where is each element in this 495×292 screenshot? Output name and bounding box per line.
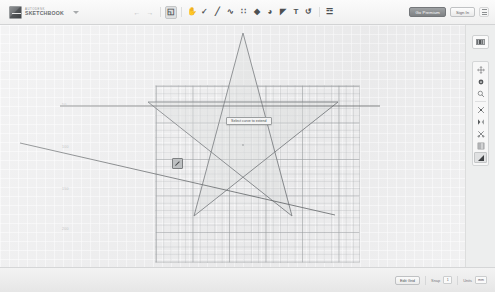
line-tool-button[interactable]: ╱: [212, 6, 224, 19]
ruler-tick-label: 50: [62, 103, 66, 107]
pan-tool-button[interactable]: ✋: [186, 6, 198, 19]
vertical-ruler: 50 100 150 200: [62, 25, 78, 267]
tool-group: ← → ◱ ✋ ✓ ╱ ∿ ∷ ◆: [131, 6, 336, 19]
app-brand[interactable]: AUTODESK SKETCHBOOK: [9, 6, 64, 19]
color-palette-swatch: [476, 39, 485, 45]
canvas-tooltip: Select curve to extend: [226, 117, 272, 125]
ruler-tick-label: 100: [62, 145, 69, 149]
go-premium-button[interactable]: Go Premium: [409, 7, 446, 17]
ruler-tick-label: 150: [62, 187, 69, 191]
curve-tool-icon: ∿: [227, 8, 234, 16]
toolbar-divider: [160, 7, 161, 17]
zoom-tool-button[interactable]: [474, 88, 487, 99]
grid-tool-button[interactable]: ∷: [238, 6, 250, 19]
panel-divider: [475, 101, 486, 102]
grid-tool-icon: ∷: [241, 8, 246, 16]
ruler-tick-label: 200: [62, 227, 69, 231]
redo-button[interactable]: →: [144, 6, 156, 19]
chevron-down-icon[interactable]: [73, 11, 79, 14]
line-tool-icon: ╱: [215, 8, 220, 16]
rotate-view-tool-button[interactable]: [474, 76, 487, 87]
edit-grid-button[interactable]: Edit Grid: [395, 276, 420, 285]
layers-tool-button[interactable]: ☲: [324, 6, 336, 19]
rotate-tool-button[interactable]: ↺: [303, 6, 315, 19]
top-toolbar: AUTODESK SKETCHBOOK ← → ◱ ✋ ✓ ╱ ∿: [0, 0, 495, 25]
extend-tool-button[interactable]: [474, 152, 487, 163]
curve-tool-button[interactable]: ∿: [225, 6, 237, 19]
layers-tool-icon: ☲: [326, 8, 333, 16]
pan-tool-icon: ✋: [187, 8, 197, 16]
status-bar: Edit Grid Snap 1 Units mm: [0, 267, 495, 292]
measure-tool-icon: ✓: [201, 8, 208, 16]
shape-tool-icon: ◆: [254, 8, 260, 16]
pen-tool-icon: [172, 158, 183, 169]
color-palette-button[interactable]: [472, 35, 489, 49]
right-panel: [465, 25, 495, 267]
snap-label: Snap: [431, 278, 440, 283]
offset-tool-button[interactable]: [474, 140, 487, 151]
top-right-actions: Go Premium Sign In: [409, 7, 489, 17]
units-value[interactable]: mm: [475, 276, 487, 284]
undo-button[interactable]: ←: [131, 6, 143, 19]
sign-in-button[interactable]: Sign In: [450, 7, 475, 17]
brand-line-2: SKETCHBOOK: [25, 11, 64, 16]
text-tool-button[interactable]: T: [290, 6, 302, 19]
units-control[interactable]: Units mm: [463, 276, 487, 284]
select-tool-icon: ◱: [167, 8, 175, 16]
select-tool-button[interactable]: ◱: [165, 6, 177, 19]
fill-tool-icon: ◕: [267, 8, 272, 16]
move-tool-button[interactable]: [474, 64, 487, 75]
snap-control[interactable]: Snap 1: [431, 276, 452, 284]
status-divider: [457, 276, 458, 285]
toolbar-divider: [319, 7, 320, 17]
rotate-tool-icon: ↺: [305, 8, 312, 16]
text-tool-icon: T: [293, 8, 298, 16]
brush-tool-button[interactable]: ◤: [277, 6, 289, 19]
units-label: Units: [463, 278, 472, 283]
brush-tool-icon: ◤: [280, 8, 286, 16]
cursor-with-tool-badge: [171, 157, 185, 171]
fill-tool-button[interactable]: ◕: [264, 6, 276, 19]
toolbar-divider: [181, 7, 182, 17]
shape-tool-button[interactable]: ◆: [251, 6, 263, 19]
right-vertical-toolbar: [472, 61, 489, 166]
origin-marker: [242, 144, 244, 146]
snap-value[interactable]: 1: [443, 276, 452, 284]
trim-tool-button[interactable]: [474, 128, 487, 139]
measure-tool-button[interactable]: ✓: [199, 6, 211, 19]
brand-text: AUTODESK SKETCHBOOK: [25, 8, 64, 17]
status-divider: [425, 276, 426, 285]
autodesk-logo-icon: [9, 6, 22, 19]
application-window: AUTODESK SKETCHBOOK ← → ◱ ✋ ✓ ╱ ∿: [0, 0, 495, 292]
scale-tool-button[interactable]: [474, 104, 487, 115]
hamburger-menu-icon[interactable]: [479, 7, 489, 17]
mirror-tool-button[interactable]: [474, 116, 487, 127]
